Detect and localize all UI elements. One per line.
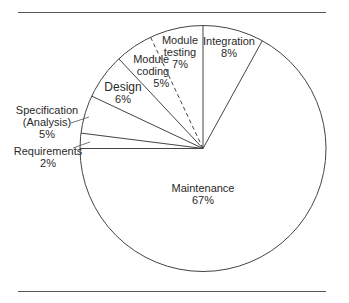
label-specification: Specification (Analysis) 5% [16, 104, 78, 140]
label-maintenance: Maintenance 67% [172, 182, 235, 206]
label-integration: Integration 8% [203, 35, 255, 59]
label-design: Design 6% [104, 81, 141, 105]
label-requirements: Requirements 2% [14, 145, 82, 169]
